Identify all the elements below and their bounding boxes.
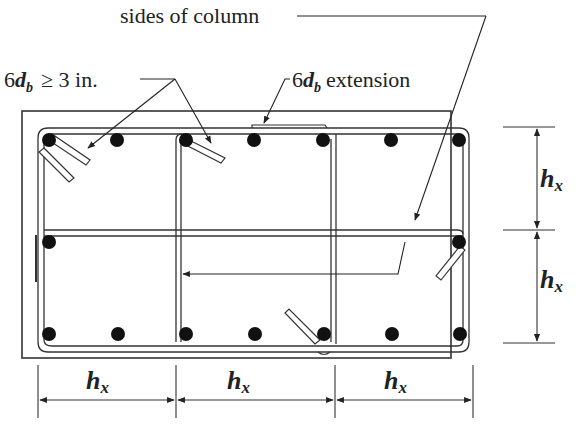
dim-hx-bottom-left: hx (86, 366, 109, 397)
longitudinal-bars (42, 133, 467, 341)
sides-of-column-label: sides of column (120, 3, 259, 28)
perimeter-hoop (38, 128, 469, 352)
extension-label: 6dbextension (292, 67, 410, 95)
hook-length-label: 6db≥ 3 in. (4, 67, 98, 95)
dim-hx-bottom-middle: hx (227, 366, 250, 397)
column-tie-diagram: sides of column 6db≥ 3 in. 6dbextension … (0, 0, 576, 425)
dim-hx-right-upper: hx (540, 164, 563, 195)
vertical-dimensions (503, 127, 555, 343)
cross-tie-horizontal (44, 230, 463, 236)
column-outline (22, 111, 451, 358)
dim-hx-bottom-right: hx (384, 366, 407, 397)
sides-leader (183, 16, 486, 274)
extension-leader (264, 79, 290, 123)
interior-tie-vertical (176, 134, 336, 344)
dim-hx-right-lower: hx (540, 265, 563, 296)
hook-extensions (39, 134, 465, 344)
